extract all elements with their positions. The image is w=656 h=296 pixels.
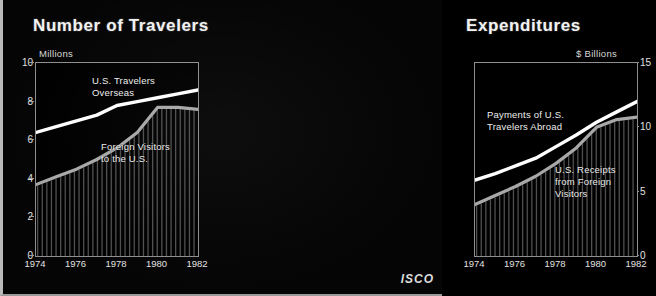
y-axis-labels-left: 0246810 [7,62,33,255]
y-tick-mark [29,255,34,256]
chart-panel-travelers: Number of Travelers Millions 0246810 U.S… [3,0,224,296]
plot-area-expenditures: Payments of U.S. Travelers Abroad U.S. R… [474,62,638,257]
y-axis-labels-right: 051015 [640,62,656,255]
page-title-travelers: Number of Travelers [33,16,209,36]
x-tick-label: 1976 [504,258,525,269]
y-tick-mark [29,62,34,63]
x-tick-label: 1980 [585,258,606,269]
chart-panel-expenditures: Expenditures $ Billions 051015 Payments … [224,0,445,296]
x-axis-labels-right: 19741976197819801982 [474,258,636,272]
y-axis-unit-right: $ Billions [576,48,617,59]
page-title-expenditures: Expenditures [466,16,581,36]
series-label-us-travelers-overseas: U.S. Travelers Overseas [92,75,155,99]
y-tick-label: 5 [640,185,646,196]
series-canvas-right [475,63,637,256]
y-tick-label: 10 [640,121,651,132]
x-tick-label: 1982 [186,258,207,269]
x-tick-label: 1976 [65,258,86,269]
y-axis-unit-left: Millions [39,48,73,59]
x-tick-label: 1974 [24,258,45,269]
x-axis-labels-left: 19741976197819801982 [35,258,197,272]
x-tick-label: 1978 [105,258,126,269]
y-tick-mark [29,101,34,102]
series-label-payments-abroad: Payments of U.S. Travelers Abroad [487,109,564,133]
y-tick-mark [29,139,34,140]
series-label-foreign-visitors: Foreign Visitors to the U.S. [101,141,170,165]
series-label-us-receipts: U.S. Receipts from Foreign Visitors [555,164,616,200]
x-tick-label: 1974 [463,258,484,269]
y-tick-mark [29,178,34,179]
y-tick-label: 15 [640,57,651,68]
x-tick-label: 1982 [625,258,646,269]
hatch-fill-left [37,109,195,256]
x-tick-label: 1978 [544,258,565,269]
x-tick-label: 1980 [146,258,167,269]
y-tick-mark [29,216,34,217]
isco-logo: ISCO [401,272,434,286]
plot-area-travelers: U.S. Travelers Overseas Foreign Visitors… [35,62,199,257]
